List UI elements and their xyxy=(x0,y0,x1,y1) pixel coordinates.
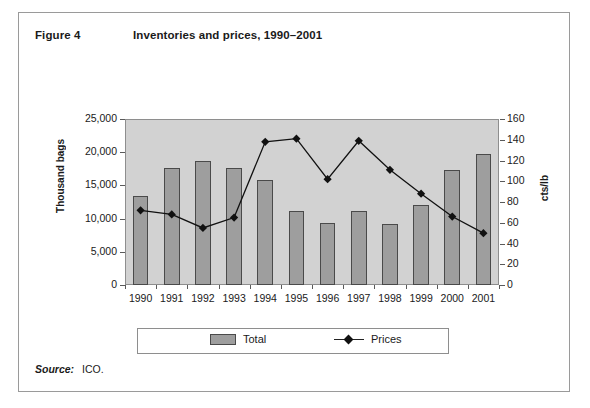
x-axis-tick-mark xyxy=(187,285,188,289)
y-axis-right-tick-label: 80 xyxy=(507,196,547,207)
x-axis-tick-mark xyxy=(156,285,157,289)
y-axis-right-tick-label: 160 xyxy=(507,113,547,124)
prices-marker-1994 xyxy=(261,138,269,146)
y-axis-right-tick-label: 0 xyxy=(507,279,547,290)
prices-marker-2001 xyxy=(479,229,487,237)
y-axis-right-tick-mark xyxy=(500,223,505,224)
y-axis-right-tick-mark xyxy=(500,140,505,141)
y-axis-right-tick-mark xyxy=(500,119,505,120)
x-axis-tick-mark xyxy=(437,285,438,289)
source-text: ICO. xyxy=(82,363,104,375)
y-axis-right-tick-mark xyxy=(500,285,505,286)
y-axis-right-tick-label: 100 xyxy=(507,175,547,186)
y-axis-right-tick-mark xyxy=(500,202,505,203)
x-axis-tick-mark xyxy=(125,285,126,289)
y-axis-left-tick-label: 20,000 xyxy=(65,146,117,157)
prices-marker-1990 xyxy=(136,206,144,214)
prices-marker-1992 xyxy=(199,224,207,232)
x-axis-tick-mark xyxy=(406,285,407,289)
y-axis-right-tick-label: 140 xyxy=(507,134,547,145)
prices-line xyxy=(141,139,484,233)
prices-line-series xyxy=(125,119,499,285)
y-axis-right-tick-label: 40 xyxy=(507,238,547,249)
y-axis-right-tick-mark xyxy=(500,181,505,182)
y-axis-right-tick-label: 60 xyxy=(507,217,547,228)
legend-swatch-total-icon xyxy=(210,334,236,345)
figure-title: Inventories and prices, 1990–2001 xyxy=(133,29,322,41)
legend-entry-prices: Prices xyxy=(334,333,402,345)
chart-legend: Total Prices xyxy=(137,328,449,354)
x-axis-tick-mark xyxy=(468,285,469,289)
legend-label-total: Total xyxy=(243,333,266,345)
y-axis-right-tick-label: 20 xyxy=(507,258,547,269)
x-axis-tick-mark xyxy=(312,285,313,289)
figure-number: Figure 4 xyxy=(35,29,133,41)
y-axis-left-tick-label: 10,000 xyxy=(65,213,117,224)
x-axis-tick-mark xyxy=(219,285,220,289)
figure-header: Figure 4 Inventories and prices, 1990–20… xyxy=(35,29,322,41)
legend-entry-total: Total xyxy=(210,333,266,345)
x-axis-tick-mark xyxy=(281,285,282,289)
x-axis-tick-mark xyxy=(374,285,375,289)
y-axis-right-tick-mark xyxy=(500,264,505,265)
chart-area: Thousand bags cts/lb 05,00010,00015,0002… xyxy=(19,83,571,313)
source-note: Source: ICO. xyxy=(35,363,104,375)
prices-marker-1991 xyxy=(168,210,176,218)
y-axis-right-tick-mark xyxy=(500,161,505,162)
legend-diamond-marker-icon xyxy=(334,334,364,345)
figure-frame: Figure 4 Inventories and prices, 1990–20… xyxy=(18,12,570,392)
x-axis-tick-mark xyxy=(250,285,251,289)
x-axis-tick-label: 2001 xyxy=(463,293,503,304)
x-axis-tick-mark xyxy=(499,285,500,289)
y-axis-right-tick-label: 120 xyxy=(507,155,547,166)
x-axis-tick-mark xyxy=(343,285,344,289)
legend-label-prices: Prices xyxy=(371,333,402,345)
y-axis-left-tick-label: 0 xyxy=(65,279,117,290)
source-label: Source: xyxy=(35,363,74,375)
y-axis-right-tick-mark xyxy=(500,244,505,245)
y-axis-left-tick-label: 5,000 xyxy=(65,246,117,257)
prices-marker-1993 xyxy=(230,213,238,221)
y-axis-left-tick-label: 15,000 xyxy=(65,179,117,190)
y-axis-left-tick-label: 25,000 xyxy=(65,113,117,124)
